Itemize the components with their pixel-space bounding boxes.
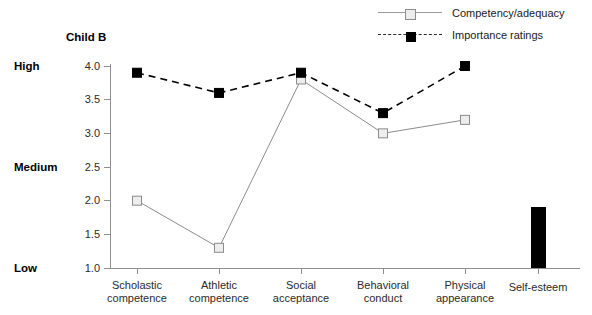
y-tick-label-3.5: 3.5	[70, 93, 100, 105]
y-tick-3.0	[104, 133, 110, 134]
series-line-competency-adequacy	[137, 79, 465, 247]
x-axis-line	[110, 268, 580, 269]
chart-title: Child B	[66, 31, 106, 43]
open-square-icon	[405, 9, 416, 20]
legend-label-competency: Competency/adequacy	[442, 7, 565, 19]
y-tick-label-3.0: 3.0	[70, 127, 100, 139]
data-point-importance-ratings-4	[461, 62, 470, 71]
x-tick-social	[301, 268, 302, 274]
x-tick-behavioral	[383, 268, 384, 274]
data-point-competency-adequacy-2	[297, 75, 306, 84]
anchor-label-high: High	[14, 60, 74, 72]
data-point-importance-ratings-0	[133, 68, 142, 77]
y-tick-2.0	[104, 200, 110, 201]
x-tick-athletic	[219, 268, 220, 274]
x-tick-scholastic	[137, 268, 138, 274]
filled-square-icon	[406, 32, 416, 42]
anchor-label-low: Low	[14, 262, 74, 274]
y-tick-label-1.0: 1.0	[70, 262, 100, 274]
x-label-social-line1: Socialacceptance	[273, 279, 329, 304]
chart-container: Competency/adequacy Importance ratings C…	[0, 0, 592, 315]
legend-item-competency: Competency/adequacy	[378, 4, 590, 22]
y-tick-label-2.0: 2.0	[70, 194, 100, 206]
self-esteem-bar	[531, 207, 546, 268]
y-tick-label-2.5: 2.5	[70, 161, 100, 173]
y-tick-1.5	[104, 234, 110, 235]
y-tick-2.5	[104, 167, 110, 168]
legend-label-importance: Importance ratings	[442, 29, 543, 41]
x-label-behavioral-line1: Behavioralconduct	[357, 279, 409, 304]
data-point-competency-adequacy-1	[215, 243, 224, 252]
anchor-label-medium: Medium	[14, 161, 74, 173]
series-line-importance-ratings	[137, 66, 465, 113]
legend-item-importance: Importance ratings	[378, 26, 590, 44]
x-tick-physical	[465, 268, 466, 274]
x-label-athletic-line1: Athleticcompetence	[189, 279, 249, 304]
legend-key-importance	[378, 28, 442, 42]
data-point-competency-adequacy-3	[379, 129, 388, 138]
y-tick-4.0	[104, 66, 110, 67]
y-axis-line	[110, 64, 111, 269]
y-tick-label-4.0: 4.0	[70, 60, 100, 72]
y-tick-label-1.5: 1.5	[70, 228, 100, 240]
x-label-self-esteem: Self-esteem	[483, 281, 592, 294]
chart-legend: Competency/adequacy Importance ratings	[378, 4, 590, 48]
data-point-importance-ratings-3	[379, 109, 388, 118]
y-tick-3.5	[104, 99, 110, 100]
data-point-importance-ratings-2	[297, 68, 306, 77]
data-point-competency-adequacy-4	[461, 115, 470, 124]
x-label-scholastic-line1: Scholasticcompetence	[107, 279, 167, 304]
y-tick-1.0	[104, 268, 110, 269]
x-tick-self-esteem	[538, 268, 539, 274]
data-point-competency-adequacy-0	[133, 196, 142, 205]
legend-key-competency	[378, 6, 442, 20]
data-point-importance-ratings-1	[215, 88, 224, 97]
